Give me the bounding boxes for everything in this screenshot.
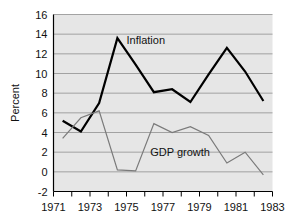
y-axis-tick-label: 14 <box>35 28 47 40</box>
y-axis-tick-label: 16 <box>35 9 47 21</box>
y-axis-tick-label: 12 <box>35 48 47 60</box>
x-axis-tick-group: 1971197319751977197919811983 <box>41 192 284 213</box>
x-axis-tick-label: 1981 <box>224 201 248 213</box>
x-axis-tick-label: 1979 <box>187 201 211 213</box>
y-axis-tick-group: 1614121086420-2 <box>35 9 47 198</box>
x-axis-tick-label: 1977 <box>151 201 175 213</box>
x-axis-tick-label: 1983 <box>260 201 284 213</box>
y-axis-title: Percent <box>9 84 21 122</box>
y-axis-tick-label: 0 <box>41 166 47 178</box>
series-label-gdp-growth: GDP growth <box>150 146 210 158</box>
y-axis-tick-label: 10 <box>35 68 47 80</box>
chart-figure: 1614121086420-2 197119731975197719791981… <box>0 0 291 224</box>
x-axis-tick-label: 1973 <box>78 201 102 213</box>
y-axis-tick-label: 4 <box>41 127 47 139</box>
series-label-inflation: Inflation <box>127 34 166 46</box>
y-axis-tick-label: 6 <box>41 107 47 119</box>
x-axis-tick-label: 1975 <box>114 201 138 213</box>
y-axis-tick-label: 8 <box>41 87 47 99</box>
x-axis-tick-label: 1971 <box>41 201 65 213</box>
line-chart: 1614121086420-2 197119731975197719791981… <box>0 0 291 224</box>
y-axis-tick-label: 2 <box>41 146 47 158</box>
axis-title-group: Percent <box>9 84 21 122</box>
y-axis-tick-label: -2 <box>38 186 48 198</box>
